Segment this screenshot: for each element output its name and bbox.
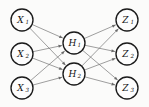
node-label-h1: H [67, 38, 76, 48]
node-h2[interactable]: H2 [63, 63, 85, 85]
edge-h2-to-z2 [84, 58, 115, 70]
edge-x1-to-h1 [32, 24, 63, 38]
node-label-z3: Z [121, 83, 129, 93]
edge-x2-to-h2 [32, 58, 62, 70]
node-subscript-z3: 3 [130, 87, 134, 93]
node-h1[interactable]: H1 [63, 32, 85, 54]
node-z3[interactable]: Z3 [116, 77, 138, 99]
arrowhead-h1-to-z1-icon [112, 25, 116, 28]
node-label-h2: H [67, 69, 76, 79]
node-subscript-z2: 2 [129, 53, 134, 59]
node-x1[interactable]: X1 [11, 9, 33, 31]
arrowhead-x2-to-h2-icon [59, 67, 63, 70]
node-label-x2: X [16, 49, 24, 59]
arrowhead-x3-to-h2-icon [58, 77, 62, 80]
node-subscript-x1: 1 [25, 19, 29, 25]
nodes-group: X1X2X3H1H2Z1Z2Z3 [11, 9, 138, 99]
arrowhead-x2-to-h1-icon [58, 45, 62, 48]
node-subscript-x2: 2 [24, 53, 29, 59]
arrowhead-h1-to-z2-icon [111, 49, 115, 52]
edge-h2-to-z3 [85, 77, 116, 85]
node-subscript-h2: 2 [76, 73, 81, 79]
node-label-z1: Z [121, 15, 129, 25]
node-label-x3: X [16, 83, 24, 93]
node-label-z2: Z [121, 49, 129, 59]
node-subscript-z1: 1 [130, 19, 134, 25]
node-x3[interactable]: X3 [11, 77, 33, 99]
node-z1[interactable]: Z1 [116, 9, 138, 31]
node-subscript-x3: 3 [25, 87, 29, 93]
node-z2[interactable]: Z2 [116, 43, 138, 65]
network-svg: X1X2X3H1H2Z1Z2Z3 [0, 0, 149, 107]
node-subscript-h1: 1 [77, 42, 81, 48]
node-label-x1: X [16, 15, 24, 25]
arrowhead-h2-to-z2-icon [112, 58, 116, 61]
edge-h1-to-z2 [85, 45, 115, 51]
node-x2[interactable]: X2 [11, 43, 33, 65]
edge-x3-to-h2 [33, 77, 63, 85]
edge-h1-to-z3 [82, 50, 117, 80]
edge-x3-to-h1 [30, 51, 64, 81]
neural-network-diagram: X1X2X3H1H2Z1Z2Z3 [0, 0, 149, 107]
